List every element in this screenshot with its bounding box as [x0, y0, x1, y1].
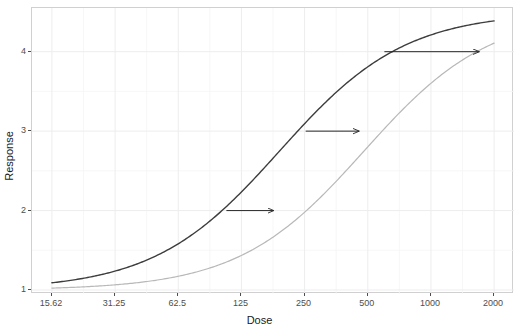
y-tick-label: 4 [12, 46, 26, 55]
x-tick-label: 250 [296, 299, 311, 308]
x-tick-mark [240, 293, 241, 296]
x-tick-mark [51, 293, 52, 296]
x-tick-label: 500 [359, 299, 374, 308]
x-tick-label: 62.5 [168, 299, 186, 308]
y-axis-title: Response [3, 121, 15, 191]
x-tick-mark [367, 293, 368, 296]
x-tick-mark [430, 293, 431, 296]
minor-gridlines [32, 8, 514, 294]
x-tick-label: 1000 [420, 299, 440, 308]
x-axis-title: Dose [0, 314, 519, 326]
x-tick-mark [304, 293, 305, 296]
plot-panel [31, 7, 513, 293]
chart-root: 15.6231.2562.512525050010002000 1234 Dos… [0, 0, 519, 335]
y-tick-label: 1 [12, 285, 26, 294]
x-tick-mark [493, 293, 494, 296]
x-tick-label: 2000 [483, 299, 503, 308]
y-tick-mark [28, 289, 31, 290]
plot-svg [32, 8, 514, 294]
y-tick-mark [28, 51, 31, 52]
x-tick-mark [114, 293, 115, 296]
x-tick-label: 125 [233, 299, 248, 308]
y-tick-label: 2 [12, 205, 26, 214]
y-tick-mark [28, 210, 31, 211]
y-tick-mark [28, 130, 31, 131]
x-tick-label: 31.25 [103, 299, 126, 308]
x-tick-label: 15.62 [40, 299, 63, 308]
x-tick-mark [177, 293, 178, 296]
